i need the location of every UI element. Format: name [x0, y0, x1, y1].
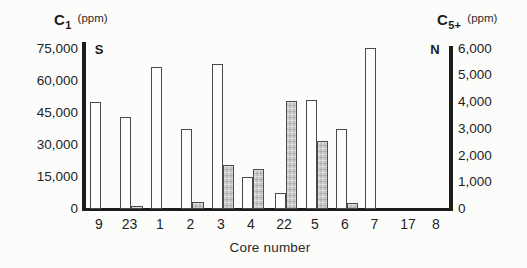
x-tick-core-3: 3	[204, 216, 238, 232]
x-tick-core-7: 7	[358, 216, 392, 232]
left-tick-0: 0	[14, 201, 78, 217]
right-tick-1,000: 1,000	[458, 174, 518, 190]
bar-c1-core-1	[151, 67, 162, 209]
x-tick-core-23: 23	[113, 216, 147, 232]
bar-c5plus-core-5	[317, 141, 329, 209]
left-tick-15,000: 15,000	[14, 169, 78, 185]
right-y-axis-line	[449, 46, 453, 210]
x-tick-core-8: 8	[419, 216, 453, 232]
bar-c1-core-7	[365, 48, 376, 209]
left-axis-title: C1(ppm)	[54, 11, 108, 31]
bar-c1-core-2	[181, 129, 192, 209]
bar-c5plus-core-23	[131, 206, 143, 209]
geochem-core-bar-chart: C1(ppm) C5+(ppm) S N 75,00060,00045,0003…	[0, 0, 527, 268]
bar-c1-core-5	[306, 100, 317, 209]
bar-c1-core-6	[336, 129, 347, 209]
right-axis-subscript: 5+	[448, 19, 461, 31]
right-tick-0: 0	[458, 201, 518, 217]
right-axis-title: C5+(ppm)	[437, 11, 497, 31]
bar-c1-core-9	[90, 102, 101, 209]
bar-c1-core-23	[120, 117, 131, 209]
x-tick-core-5: 5	[298, 216, 332, 232]
x-tick-core-4: 4	[234, 216, 268, 232]
bar-c5plus-core-3	[223, 165, 235, 209]
x-tick-core-22: 22	[267, 216, 301, 232]
right-tick-3,000: 3,000	[458, 121, 518, 137]
bar-c1-core-22	[275, 193, 286, 209]
right-tick-4,000: 4,000	[458, 94, 518, 110]
south-end-label: S	[91, 42, 107, 57]
left-tick-75,000: 75,000	[14, 41, 78, 57]
x-axis-title: Core number	[200, 240, 340, 255]
left-axis-symbol: C	[54, 11, 65, 28]
bar-c5plus-core-22	[286, 101, 298, 209]
right-tick-2,000: 2,000	[458, 148, 518, 164]
x-tick-core-2: 2	[174, 216, 208, 232]
left-axis-unit: (ppm)	[78, 12, 108, 24]
right-tick-6,000: 6,000	[458, 41, 518, 57]
left-tick-45,000: 45,000	[14, 105, 78, 121]
bar-c5plus-core-2	[192, 202, 204, 209]
x-tick-core-1: 1	[143, 216, 177, 232]
bar-c1-core-3	[212, 64, 223, 209]
right-axis-unit: (ppm)	[467, 12, 497, 24]
bar-c5plus-core-6	[347, 203, 359, 209]
north-end-label: N	[427, 42, 443, 57]
bar-c5plus-core-4	[253, 169, 265, 209]
bar-c1-core-4	[242, 177, 253, 209]
right-tick-5,000: 5,000	[458, 67, 518, 83]
left-tick-30,000: 30,000	[14, 137, 78, 153]
left-axis-subscript: 1	[65, 19, 71, 31]
left-y-axis-line	[82, 42, 86, 210]
x-tick-core-9: 9	[82, 216, 116, 232]
right-axis-symbol: C	[437, 11, 448, 28]
left-tick-60,000: 60,000	[14, 73, 78, 89]
